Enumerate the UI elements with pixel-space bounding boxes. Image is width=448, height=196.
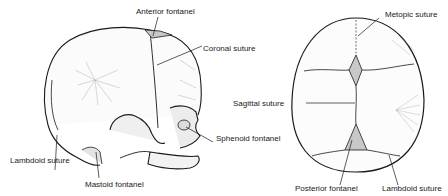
label-lambdoid-suture-lateral: Lambdoid suture: [10, 156, 70, 166]
skull-fontanels-diagram: Anterior fontanel Coronal suture Sphenoi…: [0, 0, 448, 196]
label-lambdoid-suture-superior: Lambdoid suture: [382, 184, 442, 194]
label-metopic-suture: Metopic suture: [385, 10, 437, 20]
label-posterior-fontanel: Posterior fontanel: [295, 184, 358, 194]
skull-illustration: [0, 0, 448, 196]
label-anterior-fontanel: Anterior fontanel: [136, 7, 195, 17]
lateral-skull-view: [44, 17, 213, 178]
label-coronal-suture: Coronal suture: [203, 44, 255, 54]
superior-skull-view: [292, 18, 424, 185]
label-sphenoid-fontanel: Sphenoid fontanel: [216, 134, 281, 144]
label-mastoid-fontanel: Mastoid fontanel: [85, 180, 144, 190]
label-sagittal-suture: Sagittal suture: [233, 99, 284, 109]
